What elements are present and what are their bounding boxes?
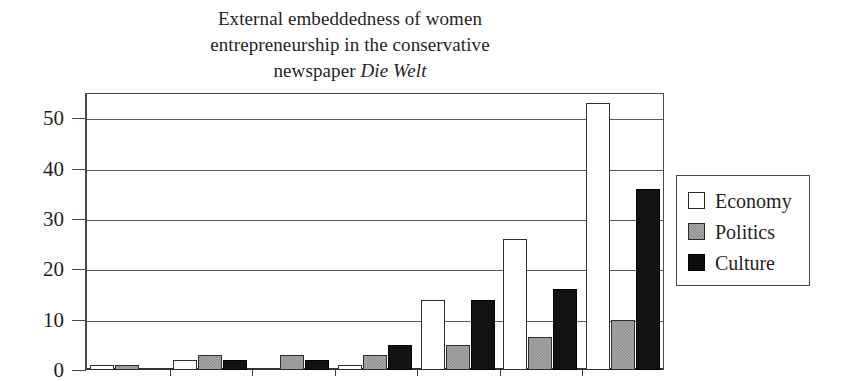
- chart-title-line-3-text: newspaper: [273, 60, 360, 81]
- chart-title-line-3: newspaper Die Welt: [0, 58, 700, 84]
- bar-politics-4: [363, 355, 387, 370]
- chart-title-line-1: External embeddedness of women: [0, 6, 700, 32]
- y-tick-mark-10: [72, 320, 86, 321]
- chart-title-line-2: entrepreneurship in the conservative: [0, 32, 700, 58]
- y-tick-label-30: 30: [43, 208, 64, 229]
- chart-legend: EconomyPoliticsCulture: [676, 175, 810, 286]
- chart-title-newspaper-name: Die Welt: [360, 60, 426, 81]
- legend-item-economy[interactable]: Economy: [688, 185, 809, 216]
- bar-group: [87, 94, 170, 370]
- bar-culture-4: [388, 345, 412, 370]
- bar-economy-5: [421, 300, 445, 371]
- y-tick-mark-20: [72, 269, 86, 270]
- bar-culture-3: [305, 360, 329, 370]
- y-tick-label-10: 10: [43, 309, 64, 330]
- bar-group: [252, 94, 335, 370]
- politics-swatch: [688, 223, 705, 240]
- y-tick-mark-0: [72, 370, 86, 371]
- y-axis: 01020304050: [0, 93, 86, 370]
- bar-group: [335, 94, 418, 370]
- culture-swatch: [688, 254, 705, 271]
- y-tick-mark-40: [72, 169, 86, 170]
- bar-culture-7: [636, 189, 660, 370]
- legend-label-economy: Economy: [715, 191, 792, 211]
- bar-group: [417, 94, 500, 370]
- legend-label-culture: Culture: [715, 253, 775, 273]
- y-tick-label-40: 40: [43, 158, 64, 179]
- bar-economy-1: [90, 365, 114, 370]
- y-tick-label-20: 20: [43, 259, 64, 280]
- y-tick-label-0: 0: [54, 360, 65, 381]
- bar-group: [170, 94, 253, 370]
- x-axis-group-tick: [170, 369, 171, 376]
- bar-culture-2: [223, 360, 247, 370]
- bar-culture-5: [471, 300, 495, 371]
- bar-economy-4: [338, 365, 362, 370]
- bar-politics-6: [528, 337, 552, 370]
- bar-politics-1: [115, 365, 139, 370]
- x-axis-group-tick: [252, 369, 253, 376]
- y-tick-mark-50: [72, 118, 86, 119]
- legend-label-politics: Politics: [715, 222, 775, 242]
- bar-economy-7: [586, 103, 610, 370]
- bar-politics-5: [446, 345, 470, 370]
- bar-politics-3: [280, 355, 304, 370]
- legend-item-culture[interactable]: Culture: [688, 247, 809, 278]
- plot-inner: [87, 94, 663, 370]
- bar-group: [582, 94, 665, 370]
- y-tick-mark-30: [72, 219, 86, 220]
- x-axis-group-tick: [417, 369, 418, 376]
- bar-politics-7: [611, 320, 635, 370]
- bar-politics-2: [198, 355, 222, 370]
- bar-economy-2: [173, 360, 197, 370]
- bar-group: [500, 94, 583, 370]
- x-axis-group-tick: [500, 369, 501, 376]
- bar-economy-6: [503, 239, 527, 370]
- legend-item-politics[interactable]: Politics: [688, 216, 809, 247]
- bar-culture-6: [553, 289, 577, 370]
- x-axis-group-tick: [335, 369, 336, 376]
- x-axis-group-tick: [582, 369, 583, 376]
- economy-swatch: [688, 192, 705, 209]
- chart-title: External embeddedness of women entrepren…: [0, 6, 700, 84]
- plot-area: [86, 93, 664, 370]
- y-tick-label-50: 50: [43, 108, 64, 129]
